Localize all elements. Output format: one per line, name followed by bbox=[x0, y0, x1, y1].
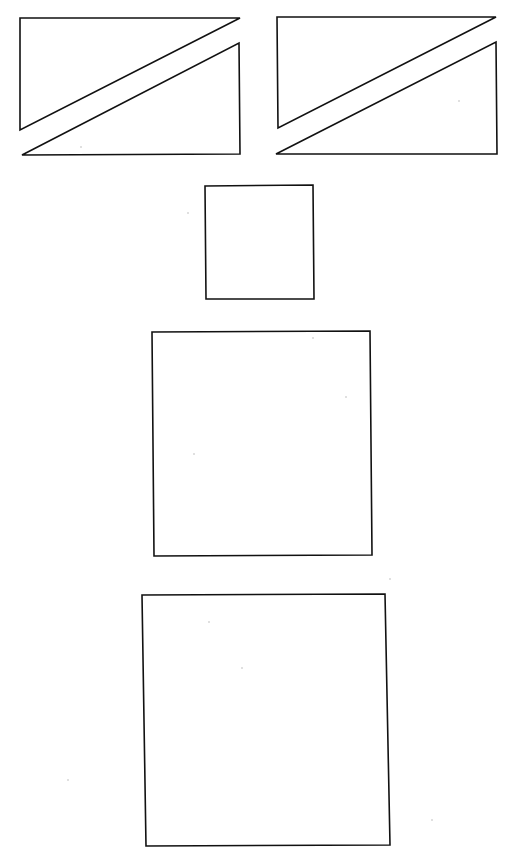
speck bbox=[241, 667, 243, 669]
speck bbox=[208, 621, 210, 623]
speck bbox=[80, 146, 82, 148]
background bbox=[0, 0, 514, 861]
speck bbox=[389, 578, 391, 580]
speck bbox=[431, 819, 433, 821]
speck bbox=[67, 779, 69, 781]
speck bbox=[193, 453, 195, 455]
speck bbox=[345, 396, 347, 398]
speck bbox=[312, 337, 314, 339]
speck bbox=[458, 100, 460, 102]
speck bbox=[187, 212, 189, 214]
diagram-canvas bbox=[0, 0, 514, 861]
